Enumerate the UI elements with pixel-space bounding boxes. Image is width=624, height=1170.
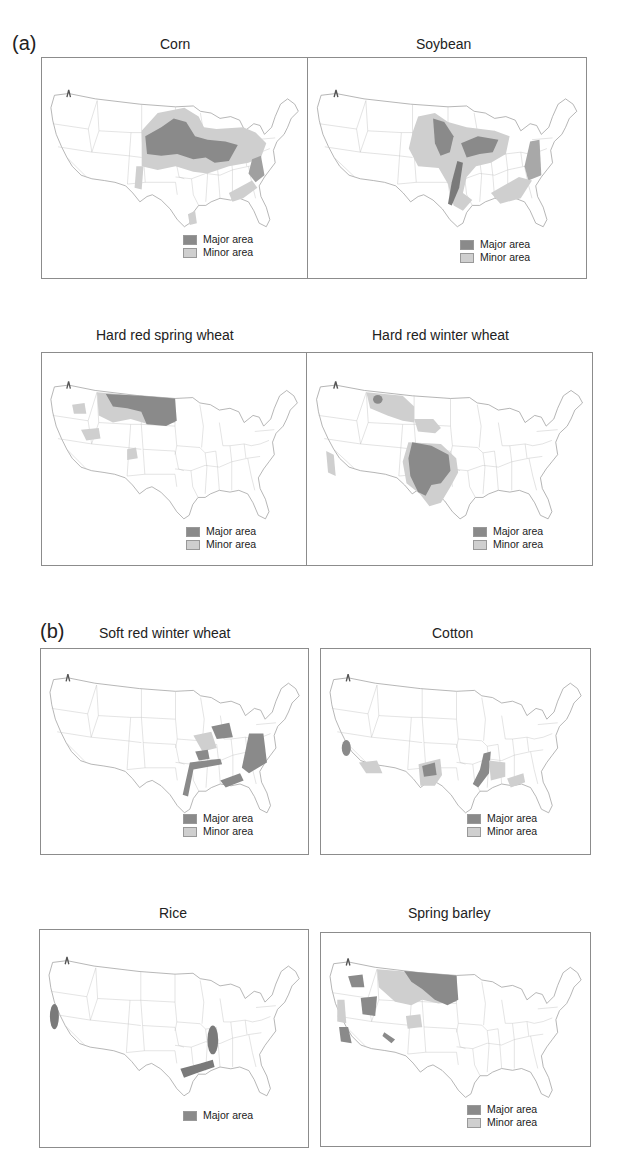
legend-major-label: Major area xyxy=(493,525,543,538)
major-area-swatch xyxy=(183,814,197,824)
major-area-swatch xyxy=(183,235,197,245)
minor-area-swatch xyxy=(467,827,481,837)
minor-area-swatch xyxy=(183,827,197,837)
major-area-swatch xyxy=(467,814,481,824)
legend: Major area Minor area xyxy=(186,525,256,551)
legend-minor-label: Minor area xyxy=(203,246,253,259)
map-panel-hard-red-spring-wheat: Major area Minor area xyxy=(41,352,307,566)
panel-title-soybean: Soybean xyxy=(416,36,471,52)
map-panel-hard-red-winter-wheat: Major area Minor area xyxy=(306,352,593,566)
major-area-swatch xyxy=(460,240,474,250)
legend: Major area Minor area xyxy=(473,525,543,551)
panel-title-rice: Rice xyxy=(159,905,187,921)
legend: Major area Minor area xyxy=(467,1103,537,1129)
major-area-swatch xyxy=(183,1111,197,1121)
legend: Major area Minor area xyxy=(460,238,530,264)
legend: Major area Minor area xyxy=(467,812,537,838)
panel-title-cotton: Cotton xyxy=(432,625,473,641)
major-area-swatch xyxy=(473,527,487,537)
legend: Major area Minor area xyxy=(183,233,253,259)
legend-major-label: Major area xyxy=(203,1109,253,1122)
legend: Major area xyxy=(183,1109,253,1122)
map-panel-spring-barley: Major area Minor area xyxy=(320,932,591,1147)
legend-major-label: Major area xyxy=(203,812,253,825)
legend-major-label: Major area xyxy=(203,233,253,246)
legend-minor-label: Minor area xyxy=(480,251,530,264)
legend-minor-label: Minor area xyxy=(487,1116,537,1129)
major-area-swatch xyxy=(186,527,200,537)
legend-minor-label: Minor area xyxy=(206,538,256,551)
map-panel-soybean: Major area Minor area xyxy=(307,57,587,279)
major-area-swatch xyxy=(467,1105,481,1115)
map-panel-corn: Major area Minor area xyxy=(41,57,308,279)
legend: Major area Minor area xyxy=(183,812,253,838)
legend-minor-label: Minor area xyxy=(493,538,543,551)
panel-title-corn: Corn xyxy=(160,36,190,52)
map-panel-cotton: Major area Minor area xyxy=(320,648,591,855)
legend-minor-label: Minor area xyxy=(487,825,537,838)
minor-area-swatch xyxy=(460,253,474,263)
minor-area-swatch xyxy=(473,540,487,550)
map-panel-rice: Major area xyxy=(39,929,309,1148)
legend-major-label: Major area xyxy=(480,238,530,251)
legend-major-label: Major area xyxy=(206,525,256,538)
legend-minor-label: Minor area xyxy=(203,825,253,838)
legend-major-label: Major area xyxy=(487,812,537,825)
panel-title-hrww: Hard red winter wheat xyxy=(372,327,509,343)
panel-title-srww: Soft red winter wheat xyxy=(99,625,231,641)
legend-major-label: Major area xyxy=(487,1103,537,1116)
minor-area-swatch xyxy=(183,248,197,258)
map-panel-soft-red-winter-wheat: Major area Minor area xyxy=(40,648,309,855)
minor-area-swatch xyxy=(186,540,200,550)
section-label-b: (b) xyxy=(40,620,64,643)
minor-area-swatch xyxy=(467,1118,481,1128)
section-label-a: (a) xyxy=(12,32,36,55)
panel-title-hrsw: Hard red spring wheat xyxy=(96,327,234,343)
panel-title-spring-barley: Spring barley xyxy=(408,905,491,921)
